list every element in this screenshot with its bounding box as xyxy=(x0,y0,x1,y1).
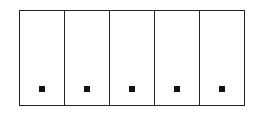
panel-5 xyxy=(199,10,245,106)
square-dot-icon xyxy=(129,86,135,92)
square-dot-icon xyxy=(39,86,45,92)
panel-4 xyxy=(154,10,200,106)
panel-1 xyxy=(19,10,65,106)
square-dot-icon xyxy=(219,86,225,92)
panel-strip xyxy=(19,10,245,106)
square-dot-icon xyxy=(174,86,180,92)
panel-2 xyxy=(64,10,110,106)
square-dot-icon xyxy=(84,86,90,92)
panel-3 xyxy=(109,10,155,106)
